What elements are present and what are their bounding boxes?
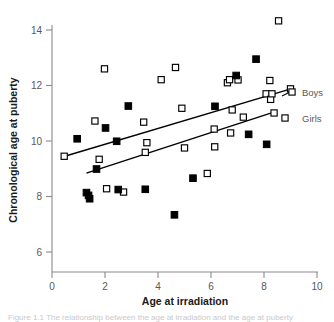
data-point-boys <box>125 103 132 110</box>
figure-caption: Figure 1.1 The relationship between the … <box>8 313 328 322</box>
data-point-girls <box>103 186 109 192</box>
data-point-boys <box>74 135 81 142</box>
data-point-girls <box>144 140 150 146</box>
data-point-boys <box>190 175 197 182</box>
scatter-plot-figure: 68101214 0246810 BoysGirls Age at irradi… <box>0 0 334 322</box>
x-tick-label: 8 <box>261 281 267 292</box>
data-point-girls <box>229 107 235 113</box>
data-point-girls <box>141 119 147 125</box>
y-axis-title: Chronological age at puberty <box>7 77 19 222</box>
data-point-boys <box>113 138 120 145</box>
data-point-girls <box>181 145 187 151</box>
x-axis-title: Age at irradiation <box>142 295 228 307</box>
data-point-girls <box>275 18 281 24</box>
y-tick-label: 10 <box>31 136 43 147</box>
data-point-girls <box>267 77 273 83</box>
data-point-girls <box>226 77 232 83</box>
data-point-boys <box>253 56 260 63</box>
data-point-boys <box>212 103 219 110</box>
data-point-girls <box>240 114 246 120</box>
data-point-boys <box>171 212 178 219</box>
data-point-boys <box>233 72 240 79</box>
legend-marker-girls <box>282 115 288 121</box>
data-point-girls <box>92 118 98 124</box>
chart-canvas: 68101214 0246810 BoysGirls Age at irradi… <box>0 0 334 322</box>
data-point-girls <box>96 156 102 162</box>
y-tick-label: 14 <box>31 25 43 36</box>
x-tick-label: 6 <box>208 281 214 292</box>
data-point-boys <box>93 166 100 173</box>
data-point-boys <box>142 186 149 193</box>
chart-background <box>0 0 334 322</box>
data-point-girls <box>211 126 217 132</box>
y-tick-label: 6 <box>36 247 42 258</box>
legend-label-girls: Girls <box>302 113 322 124</box>
data-point-boys <box>245 131 252 138</box>
data-point-girls <box>101 66 107 72</box>
legend-marker-boys <box>289 89 295 95</box>
data-point-girls <box>61 153 67 159</box>
data-point-boys <box>263 141 270 148</box>
x-tick-label: 10 <box>311 281 323 292</box>
data-point-girls <box>172 64 178 70</box>
x-tick-label: 2 <box>102 281 108 292</box>
data-point-girls <box>142 149 148 155</box>
y-tick-label: 8 <box>36 191 42 202</box>
data-point-girls <box>179 105 185 111</box>
data-point-girls <box>228 130 234 136</box>
data-point-boys <box>115 186 122 193</box>
data-point-girls <box>269 91 275 97</box>
data-point-girls <box>212 144 218 150</box>
x-tick-label: 0 <box>49 281 55 292</box>
data-point-boys <box>102 125 109 132</box>
x-tick-label: 4 <box>155 281 161 292</box>
data-point-girls <box>158 77 164 83</box>
data-point-girls <box>271 110 277 116</box>
data-point-girls <box>204 170 210 176</box>
data-point-boys <box>86 195 93 202</box>
y-tick-label: 12 <box>31 80 43 91</box>
legend-label-boys: Boys <box>302 87 323 98</box>
